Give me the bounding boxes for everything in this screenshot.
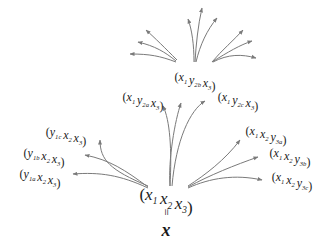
neighbor-node-y2c: (x1y2cx3) (218, 90, 258, 113)
edge-to-y3b (188, 157, 258, 187)
neighbor-node-y1a: (y1ax2x3) (20, 167, 61, 190)
fan-edge-9 (213, 55, 256, 62)
vector-x-label: x (161, 220, 171, 240)
equals-sign: = (159, 208, 173, 216)
neighborhood-diagram: (x1x2x3)(y1ax2x3)(y1bx2x3)(y1cx2x3)(x1y2… (0, 0, 324, 244)
neighbor-node-y3b: (x1x2y3b) (270, 146, 311, 169)
neighbor-node-y1c: (y1cx2x3) (46, 125, 86, 148)
fan-edge-5 (188, 19, 194, 62)
fan-edge-8 (212, 41, 252, 62)
neighbor-node-y2a: (x1y2ax3) (123, 90, 164, 113)
neighbor-node-y3a: (x1x2y3a) (246, 124, 287, 147)
neighbor-node-y2b: (x1y2bx3) (175, 70, 216, 93)
neighbor-node-y1b: (y1bx2x3) (24, 146, 65, 169)
edge-to-y2c (172, 101, 205, 186)
neighbor-node-y3c: (x1x2y3c) (272, 170, 312, 193)
fan-edge-2 (138, 42, 176, 61)
fan-edge-7 (212, 30, 243, 62)
